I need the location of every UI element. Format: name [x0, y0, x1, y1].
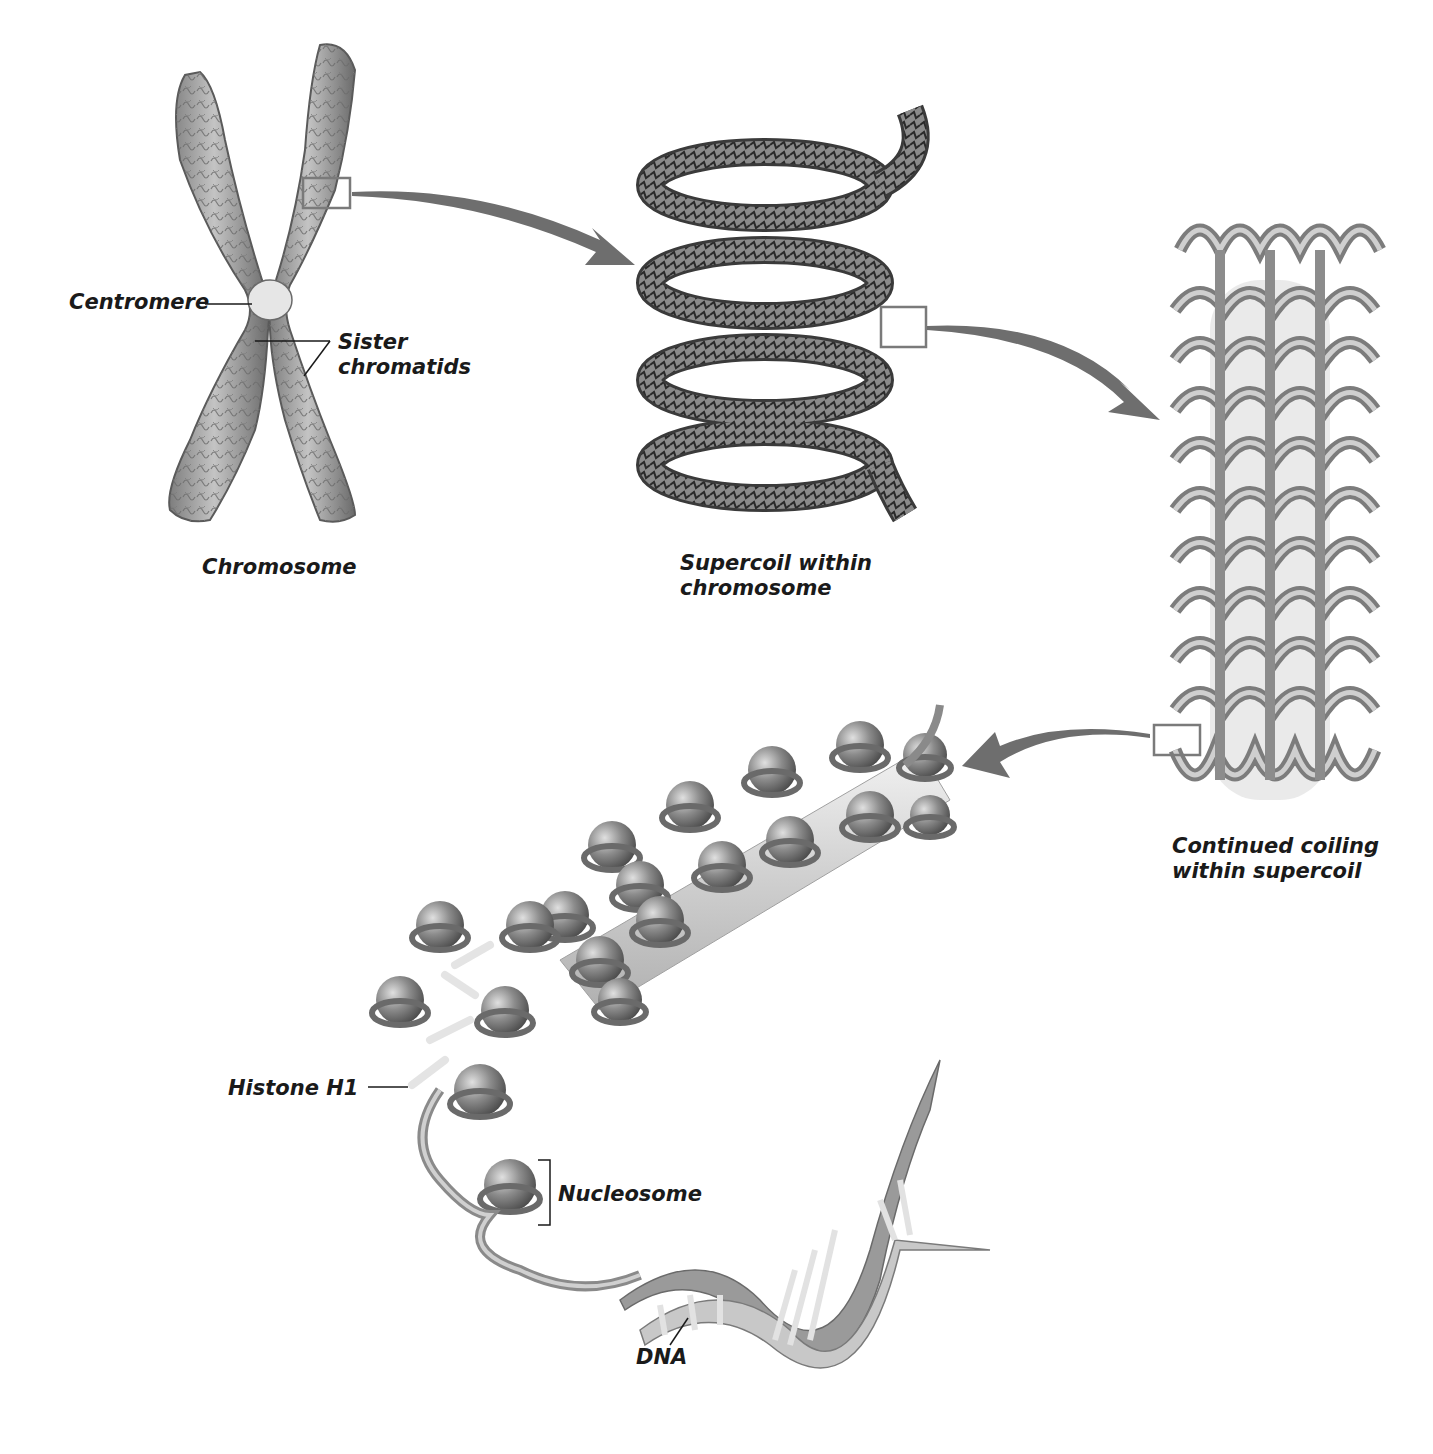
dna-helix-illustration [620, 1060, 990, 1368]
label-chromosome: Chromosome [202, 555, 357, 580]
centromere-shape [248, 280, 292, 320]
label-histone-h1: Histone H1 [228, 1076, 358, 1101]
label-nucleosome: Nucleosome [558, 1182, 702, 1207]
label-continued-coiling: Continued coiling within supercoil [1172, 834, 1379, 884]
label-centromere: Centromere [69, 290, 209, 315]
continued-coiling-illustration [1154, 230, 1380, 800]
label-sister-chromatids: Sister chromatids [338, 330, 471, 380]
nucleosome-highlighted [480, 1159, 540, 1212]
arrow-supercoil-to-coiling [927, 326, 1160, 420]
label-supercoil: Supercoil within chromosome [680, 551, 872, 601]
chromosome-illustration [169, 44, 355, 521]
diagram-svg [0, 0, 1433, 1454]
diagram-canvas: Centromere Sister chromatids Chromosome … [0, 0, 1433, 1454]
label-dna: DNA [636, 1345, 687, 1370]
arrow-coiling-to-nucleosome-fiber [962, 729, 1150, 778]
inset-box-supercoil [881, 307, 926, 347]
supercoil-illustration [650, 110, 926, 515]
arrow-chromosome-to-supercoil [352, 191, 635, 265]
